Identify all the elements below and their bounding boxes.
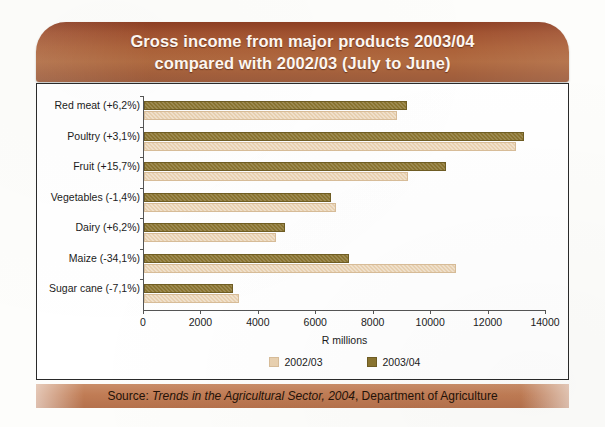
- source-prefix: Source:: [107, 389, 152, 403]
- x-axis-tick: [143, 310, 144, 314]
- category-label: Poultry (+3,1%): [36, 129, 140, 143]
- category-label: Maize (-34,1%): [36, 251, 140, 265]
- x-axis-tick-label: 8000: [361, 316, 384, 328]
- x-axis-tick-label: 10000: [416, 316, 445, 328]
- bar-2002-03: [144, 203, 336, 212]
- source-text: Source: Trends in the Agricultural Secto…: [107, 389, 497, 403]
- source-suffix: , Department of Agriculture: [355, 389, 498, 403]
- legend-label-2002-03: 2002/03: [285, 356, 323, 368]
- x-axis-tick-label: 12000: [473, 316, 502, 328]
- page-title: Gross income from major products 2003/04…: [36, 22, 569, 74]
- category-label: Sugar cane (-7,1%): [36, 281, 140, 295]
- bar-group: Fruit (+15,7%): [144, 157, 546, 188]
- bar-2002-03: [144, 233, 276, 242]
- x-axis-tick-label: 2000: [189, 316, 212, 328]
- bar-2003-04: [144, 132, 524, 141]
- x-axis-tick: [258, 310, 259, 314]
- x-axis-title: R millions: [143, 334, 546, 346]
- bar-2002-03: [144, 172, 408, 181]
- title-line-2: compared with 2002/03 (July to June): [36, 52, 569, 74]
- chart-title-banner: Gross income from major products 2003/04…: [36, 22, 569, 82]
- y-axis-tick: [140, 127, 144, 128]
- bar-group: Vegetables (-1,4%): [144, 188, 546, 219]
- x-axis-tick: [430, 310, 431, 314]
- x-axis-tick-label: 14000: [530, 316, 559, 328]
- bar-2003-04: [144, 223, 285, 232]
- title-line-1: Gross income from major products 2003/04: [36, 30, 569, 52]
- x-axis-tick: [373, 310, 374, 314]
- bar-2003-04: [144, 101, 407, 110]
- bar-group: Dairy (+6,2%): [144, 218, 546, 249]
- legend-swatch-2002-03-icon: [269, 357, 279, 367]
- y-axis-tick: [140, 279, 144, 280]
- x-axis-tick: [200, 310, 201, 314]
- x-axis-tick-label: 4000: [246, 316, 269, 328]
- legend-item-new: 2003/04: [367, 356, 421, 368]
- x-axis-tick: [545, 310, 546, 314]
- bar-2002-03: [144, 294, 239, 303]
- x-axis-tick-label: 0: [140, 316, 146, 328]
- bar-group: Maize (-34,1%): [144, 249, 546, 280]
- category-label: Vegetables (-1,4%): [36, 190, 140, 204]
- y-axis-tick: [140, 157, 144, 158]
- bar-2002-03: [144, 264, 456, 273]
- chart-frame: Red meat (+6,2%)Poultry (+3,1%)Fruit (+1…: [36, 83, 569, 380]
- bar-2003-04: [144, 254, 349, 263]
- x-axis-tick: [488, 310, 489, 314]
- legend-swatch-2003-04-icon: [367, 357, 377, 367]
- bar-group: Poultry (+3,1%): [144, 127, 546, 158]
- x-axis: 02000400060008000100001200014000: [143, 310, 546, 311]
- bar-2003-04: [144, 162, 446, 171]
- scanned-page: Gross income from major products 2003/04…: [0, 0, 605, 427]
- x-axis-tick: [315, 310, 316, 314]
- source-bar: Source: Trends in the Agricultural Secto…: [36, 384, 569, 408]
- plot-area: Red meat (+6,2%)Poultry (+3,1%)Fruit (+1…: [143, 96, 546, 310]
- y-axis-tick: [140, 249, 144, 250]
- category-label: Red meat (+6,2%): [36, 98, 140, 112]
- bar-2002-03: [144, 142, 516, 151]
- bar-2002-03: [144, 111, 397, 120]
- x-axis-tick-label: 6000: [304, 316, 327, 328]
- legend-label-2003-04: 2003/04: [383, 356, 421, 368]
- y-axis-tick: [140, 188, 144, 189]
- bar-2003-04: [144, 284, 233, 293]
- source-publication: Trends in the Agricultural Sector, 2004: [152, 389, 355, 403]
- y-axis-tick: [140, 218, 144, 219]
- bar-group: Sugar cane (-7,1%): [144, 279, 546, 310]
- category-label: Dairy (+6,2%): [36, 220, 140, 234]
- category-label: Fruit (+15,7%): [36, 159, 140, 173]
- bar-group: Red meat (+6,2%): [144, 96, 546, 127]
- legend-item-old: 2002/03: [269, 356, 323, 368]
- y-axis-tick: [140, 96, 144, 97]
- bar-2003-04: [144, 193, 331, 202]
- chart-legend: 2002/03 2003/04: [143, 356, 546, 368]
